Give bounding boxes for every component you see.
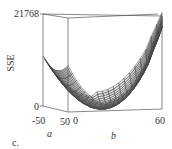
z-axis-label: SSE (6, 54, 16, 71)
b-axis-label: b (111, 131, 116, 141)
a-axis-label: a (47, 129, 52, 139)
z-min-tick-label: 0 (34, 102, 39, 112)
z-max-tick-label: 21768 (14, 9, 39, 19)
panel-label: c. (12, 138, 19, 148)
b-max-tick-label: 60 (155, 116, 165, 126)
a-min-tick-label: -50 (32, 116, 45, 126)
surface-plot (0, 0, 172, 149)
b-min-tick-label: 0 (73, 116, 78, 126)
a-max-tick-label: 50 (60, 117, 70, 127)
sse-surface (43, 12, 162, 109)
